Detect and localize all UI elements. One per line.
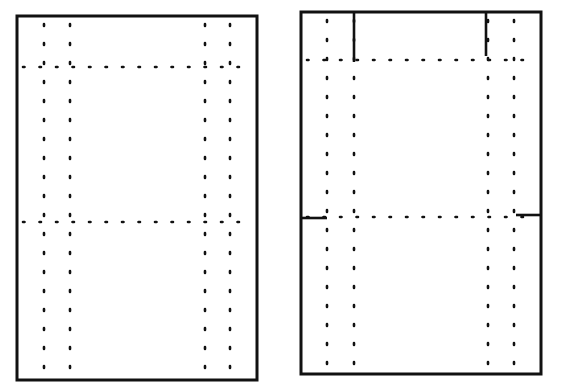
diagram-canvas: [0, 0, 574, 392]
sheet-outline: [17, 16, 257, 380]
left-sheet-panel: [17, 16, 257, 380]
sheet-outline: [301, 12, 541, 374]
right-sheet-panel: [301, 12, 541, 374]
